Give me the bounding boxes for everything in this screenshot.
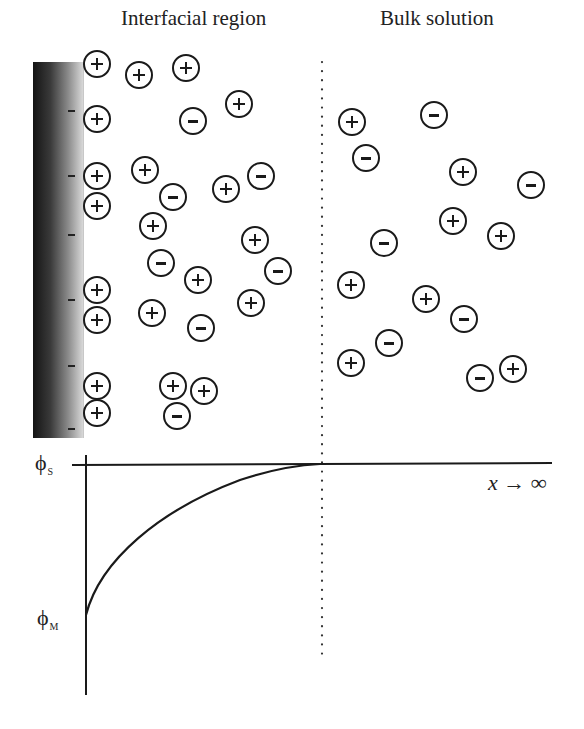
potential-curve xyxy=(86,464,320,615)
cation-icon xyxy=(225,90,253,118)
cation-icon xyxy=(439,207,467,235)
cation-icon xyxy=(159,372,187,400)
phi-m-label: ϕM xyxy=(37,605,59,632)
phi-s-label: ϕS xyxy=(35,450,53,477)
cation-icon xyxy=(184,266,212,294)
cation-icon xyxy=(449,158,477,186)
cation-icon xyxy=(83,276,111,304)
anion-icon xyxy=(466,364,494,392)
anion-icon xyxy=(187,314,215,342)
anion-icon xyxy=(179,107,207,135)
anion-icon xyxy=(517,171,545,199)
anion-icon xyxy=(450,305,478,333)
anion-icon xyxy=(159,183,187,211)
anion-icon xyxy=(264,257,292,285)
phi-symbol: ϕ xyxy=(37,605,49,630)
cation-icon xyxy=(487,222,515,250)
cation-icon xyxy=(83,50,111,78)
anion-icon xyxy=(375,329,403,357)
cation-icon xyxy=(212,175,240,203)
cation-icon xyxy=(131,156,159,184)
anion-icon xyxy=(420,101,448,129)
cation-icon xyxy=(83,192,111,220)
anion-icon xyxy=(163,402,191,430)
cation-icon xyxy=(190,377,218,405)
cation-icon xyxy=(139,212,167,240)
cation-icon xyxy=(138,299,166,327)
phi-m-subscript: M xyxy=(50,621,59,632)
anion-icon xyxy=(370,229,398,257)
x-infinity-label: x → ∞ xyxy=(488,470,546,496)
phi-s-subscript: S xyxy=(48,466,54,477)
cation-icon xyxy=(337,271,365,299)
anion-icon xyxy=(352,144,380,172)
cation-icon xyxy=(83,399,111,427)
cation-icon xyxy=(338,108,366,136)
cation-icon xyxy=(83,306,111,334)
cation-icon xyxy=(412,285,440,313)
phi-symbol: ϕ xyxy=(35,450,47,475)
cation-icon xyxy=(172,54,200,82)
cation-icon xyxy=(83,372,111,400)
cation-icon xyxy=(337,349,365,377)
cation-icon xyxy=(241,226,269,254)
cation-icon xyxy=(83,162,111,190)
cation-icon xyxy=(83,105,111,133)
cation-icon xyxy=(125,61,153,89)
cation-icon xyxy=(237,289,265,317)
anion-icon xyxy=(247,162,275,190)
anion-icon xyxy=(147,249,175,277)
cation-icon xyxy=(499,355,527,383)
